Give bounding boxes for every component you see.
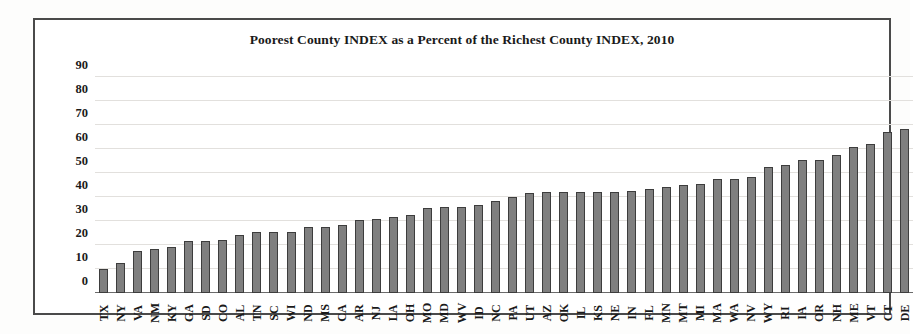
x-tick-wrapper: KS xyxy=(589,293,606,334)
x-tick-wrapper: FL xyxy=(641,293,658,334)
y-tick-label: 70 xyxy=(76,106,89,119)
bar-vt xyxy=(866,144,875,293)
x-tick-wrapper: LA xyxy=(385,293,402,334)
bar-slot: AL xyxy=(231,77,248,293)
bar-slot: NM xyxy=(146,77,163,293)
bar-il xyxy=(576,192,585,293)
x-tick-label-nm: NM xyxy=(149,303,161,323)
x-tick-wrapper: NY xyxy=(112,293,129,334)
x-tick-label-ca: CA xyxy=(336,304,348,321)
x-tick-wrapper: WY xyxy=(760,293,777,334)
bar-slot: LA xyxy=(385,77,402,293)
bar-ri xyxy=(781,165,790,293)
x-tick-wrapper: CO xyxy=(214,293,231,334)
bar-slot: OK xyxy=(555,77,572,293)
x-tick-label-ok: OK xyxy=(558,304,570,323)
bar-az xyxy=(542,192,551,293)
bar-slot: RI xyxy=(777,77,794,293)
bar-slot: KS xyxy=(589,77,606,293)
bar-slot: TX xyxy=(95,77,112,293)
y-tick-label: 30 xyxy=(76,202,89,215)
bar-slot: NV xyxy=(743,77,760,293)
bar-wy xyxy=(764,167,773,293)
bar-slot: NJ xyxy=(368,77,385,293)
x-tick-label-mi: MI xyxy=(694,305,706,321)
x-tick-label-al: AL xyxy=(234,305,246,322)
bar-slot: ND xyxy=(300,77,317,293)
x-tick-label-tn: TN xyxy=(251,305,263,322)
x-tick-wrapper: KY xyxy=(163,293,180,334)
x-tick-label-fl: FL xyxy=(643,305,655,320)
x-tick-wrapper: MD xyxy=(436,293,453,334)
y-tick-label: 80 xyxy=(76,82,89,95)
bar-slot: MI xyxy=(692,77,709,293)
bar-ms xyxy=(321,227,330,293)
x-tick-label-ri: RI xyxy=(779,306,791,319)
x-tick-label-va: VA xyxy=(132,305,144,321)
bar-md xyxy=(440,207,449,293)
bar-nv xyxy=(747,177,756,293)
x-tick-label-oh: OH xyxy=(404,304,416,323)
x-tick-wrapper: MT xyxy=(675,293,692,334)
bar-ks xyxy=(593,192,602,293)
y-tick-label: 40 xyxy=(76,178,89,191)
x-tick-label-nj: NJ xyxy=(370,306,382,321)
bar-slot: KY xyxy=(163,77,180,293)
bar-slot: MN xyxy=(658,77,675,293)
x-tick-label-mn: MN xyxy=(660,303,672,323)
x-tick-wrapper: AL xyxy=(231,293,248,334)
x-tick-wrapper: AR xyxy=(351,293,368,334)
bar-nm xyxy=(150,249,159,293)
x-tick-label-ma: MA xyxy=(711,303,723,323)
x-tick-wrapper: OH xyxy=(402,293,419,334)
x-tick-wrapper: ME xyxy=(845,293,862,334)
bar-ma xyxy=(713,179,722,293)
x-tick-label-mt: MT xyxy=(677,303,689,322)
x-tick-wrapper: TX xyxy=(95,293,112,334)
x-tick-label-ms: MS xyxy=(319,304,331,322)
x-tick-label-ut: UT xyxy=(524,305,536,322)
x-tick-wrapper: WI xyxy=(283,293,300,334)
x-tick-label-ky: KY xyxy=(166,304,178,322)
x-tick-wrapper: UT xyxy=(521,293,538,334)
bar-slot: AZ xyxy=(538,77,555,293)
x-tick-wrapper: IL xyxy=(572,293,589,334)
x-tick-label-nc: NC xyxy=(490,304,502,321)
x-tick-wrapper: RI xyxy=(777,293,794,334)
x-tick-wrapper: MS xyxy=(317,293,334,334)
bar-slot: IL xyxy=(572,77,589,293)
x-tick-wrapper: WA xyxy=(726,293,743,334)
x-tick-wrapper: CA xyxy=(334,293,351,334)
bar-slot: UT xyxy=(521,77,538,293)
bar-slot: ME xyxy=(845,77,862,293)
bar-slot: IA xyxy=(794,77,811,293)
x-tick-wrapper: OR xyxy=(811,293,828,334)
y-tick-label: 10 xyxy=(76,250,89,263)
y-tick-label: 50 xyxy=(76,154,89,167)
x-tick-wrapper: IN xyxy=(623,293,640,334)
bar-tx xyxy=(99,269,108,293)
x-tick-label-il: IL xyxy=(575,307,587,320)
bar-series: TXNYVANMKYGASDCOALTNSCWINDMSCAARNJLAOHMO… xyxy=(95,77,913,293)
x-tick-wrapper: MA xyxy=(709,293,726,334)
bar-al xyxy=(235,235,244,293)
x-tick-label-co: CO xyxy=(217,304,229,322)
x-tick-wrapper: NV xyxy=(743,293,760,334)
y-tick-label: 60 xyxy=(76,130,89,143)
bar-mi xyxy=(696,184,705,293)
x-tick-wrapper: ID xyxy=(470,293,487,334)
bar-nj xyxy=(372,219,381,293)
bar-ky xyxy=(167,247,176,293)
bar-wi xyxy=(287,232,296,293)
bar-fl xyxy=(645,189,654,293)
bar-or xyxy=(815,160,824,293)
bar-mo xyxy=(423,208,432,293)
x-tick-label-wv: WV xyxy=(456,303,468,324)
bar-slot: AR xyxy=(351,77,368,293)
x-tick-label-ct: CT xyxy=(882,305,894,322)
bar-in xyxy=(627,191,636,293)
x-tick-wrapper: AZ xyxy=(538,293,555,334)
bar-pa xyxy=(508,197,517,293)
bar-sc xyxy=(269,232,278,293)
